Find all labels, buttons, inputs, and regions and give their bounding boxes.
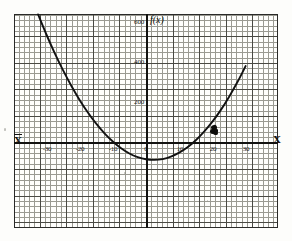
x-tick-label: 10 xyxy=(177,146,184,153)
x-axis-label-left: X xyxy=(14,134,22,146)
y-axis-line xyxy=(146,14,148,228)
x-axis-label-left-text: X xyxy=(14,134,22,146)
x-tick-label: -30 xyxy=(43,146,52,153)
x-tick-label: -20 xyxy=(76,146,85,153)
scan-speck xyxy=(124,172,126,174)
y-tick-label: 200 xyxy=(126,99,144,106)
y-axis-label: f(x) xyxy=(150,15,164,25)
scan-speck xyxy=(4,128,6,131)
x-tick-label: 30 xyxy=(243,146,250,153)
marked-point-icon xyxy=(210,125,219,136)
x-axis-label-right-text: X xyxy=(273,133,281,145)
x-tick-label: 0 xyxy=(144,146,147,153)
x-tick-label: -10 xyxy=(109,146,118,153)
y-tick-label: 600 xyxy=(126,19,144,26)
x-tick-label: 20 xyxy=(210,146,217,153)
graph-figure: X X f(x) -30-20-100102030 600400200 xyxy=(0,0,292,241)
y-tick-label: 400 xyxy=(126,59,144,66)
x-axis-label-right: X xyxy=(273,134,281,145)
